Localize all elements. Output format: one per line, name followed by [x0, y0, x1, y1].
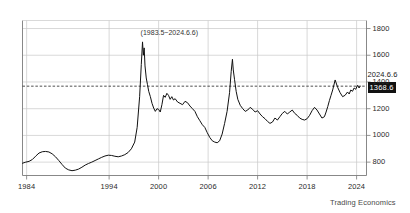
y-axis-tick-label: 1000: [373, 130, 390, 139]
x-axis-tick-label: 2006: [200, 182, 217, 191]
x-axis-tick-label: 2000: [150, 182, 167, 191]
series-line: [23, 42, 361, 171]
tick-marks: [27, 29, 371, 180]
x-axis-tick-label: 1994: [101, 182, 118, 191]
x-axis-tick-label: 2024: [348, 182, 365, 191]
y-axis-tick-label: 1600: [373, 50, 390, 59]
axis-lines: [23, 21, 367, 176]
y-axis-tick-label: 1200: [373, 104, 390, 113]
grid-lines: [23, 21, 367, 176]
x-axis-tick-label: 2012: [249, 182, 266, 191]
y-axis-tick-label: 1800: [373, 24, 390, 33]
chart-title-annotation: (1983.5~2024.6.6): [141, 29, 198, 36]
x-axis-tick-label: 2018: [299, 182, 316, 191]
watermark-label: Trading Economics: [330, 198, 396, 207]
x-axis-tick-label: 1984: [18, 182, 35, 191]
y-axis-tick-label: 1400: [373, 77, 390, 86]
chart-container: (1983.5~2024.6.6) 2024.6.6 1368.6 Tradin…: [0, 0, 410, 213]
y-axis-tick-label: 800: [373, 157, 386, 166]
